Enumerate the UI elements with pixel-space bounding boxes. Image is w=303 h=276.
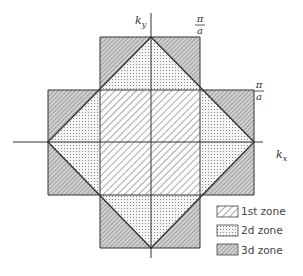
svg-text:3d zone: 3d zone [241,244,283,256]
legend-item-zone-3: 3d zone [217,244,283,256]
legend-item-zone-2: 2d zone [217,224,283,236]
svg-text:a: a [256,91,262,102]
ky-label: ky [135,14,147,29]
brillouin-zone-diagram: ky kx π a π a 1st zone 2d zone 3d zone [0,0,303,276]
svg-text:π: π [196,13,204,24]
svg-text:1st zone: 1st zone [241,205,286,217]
svg-text:2d zone: 2d zone [241,224,283,236]
kx-label: kx [276,148,288,163]
boundary-label-top: π a [195,13,205,36]
legend-item-zone-1: 1st zone [217,205,286,217]
svg-text:a: a [197,25,203,36]
svg-text:π: π [255,79,263,90]
boundary-label-right: π a [254,79,264,102]
legend: 1st zone 2d zone 3d zone [217,205,286,256]
